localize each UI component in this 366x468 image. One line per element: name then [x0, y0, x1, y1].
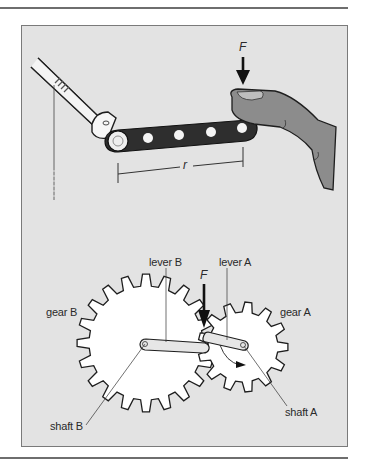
diagram-art: [0, 0, 366, 468]
radius-dimension: [118, 147, 243, 183]
gear-b-label: gear B: [46, 306, 77, 318]
shaft-rod: [31, 58, 100, 200]
force-label-bottom: F: [200, 268, 207, 282]
bottom-rule: [0, 457, 348, 459]
force-arrow-top: [236, 57, 250, 85]
radius-label: r: [183, 158, 187, 172]
lever-a-label: lever A: [219, 256, 251, 268]
shaft-a-label: shaft A: [285, 406, 317, 418]
shaft-b-label: shaft B: [50, 420, 83, 432]
lever-b-label: lever B: [149, 256, 182, 268]
torque-bar: [105, 120, 257, 152]
force-label-top: F: [239, 40, 246, 54]
gear-a-label: gear A: [280, 306, 311, 318]
